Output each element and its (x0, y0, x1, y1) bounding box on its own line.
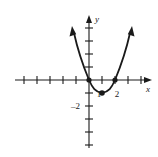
point-root-left (86, 77, 91, 82)
x-axis-arrowhead (144, 77, 152, 83)
x-tick-label-two: 2 (115, 89, 120, 99)
x-axis-label: x (145, 84, 150, 94)
x-tick-label-one: 1 (97, 89, 102, 99)
y-axis-label: y (94, 14, 99, 24)
y-axis-arrowhead (86, 15, 92, 23)
y-tick-label-minus-two: –2 (70, 101, 80, 111)
graph-figure: 1 2 –2 y x (0, 0, 158, 157)
point-root-right (112, 77, 117, 82)
parabola-plot: 1 2 –2 y x (0, 0, 158, 157)
